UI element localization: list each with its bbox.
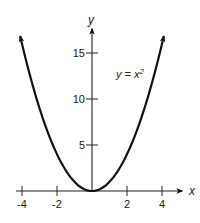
x-tick-label: 2 xyxy=(124,198,130,210)
y-axis: 51015 y xyxy=(73,13,98,191)
x-axis-title: x xyxy=(188,184,196,198)
equation-label: y = x2 xyxy=(115,67,145,80)
y-axis-title: y xyxy=(87,13,95,27)
y-tick-label: 10 xyxy=(73,93,85,105)
y-tick-label: 5 xyxy=(79,139,85,151)
y-tick-label: 15 xyxy=(73,47,85,59)
y-axis-ticks: 51015 xyxy=(73,47,98,151)
x-tick-label: -4 xyxy=(17,198,27,210)
x-tick-label: 4 xyxy=(159,198,165,210)
x-axis: -4-224 x xyxy=(16,184,196,210)
x-tick-label: -2 xyxy=(52,198,62,210)
parabola-chart: -4-224 x 51015 y y = x2 xyxy=(0,0,200,223)
x-axis-ticks: -4-224 xyxy=(17,186,165,210)
